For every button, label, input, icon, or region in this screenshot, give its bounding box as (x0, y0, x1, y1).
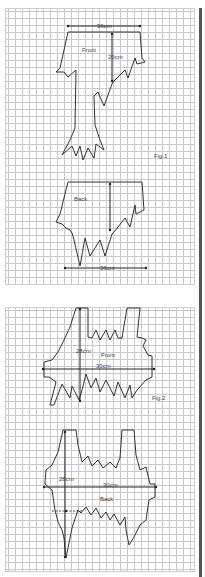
fig2-front-label: Front (101, 352, 115, 358)
fig2-front-width-label: 30cm (96, 363, 111, 369)
fig1-back-label: Back (74, 196, 88, 202)
fig1-front-label: Front (82, 47, 96, 53)
fig1-back-width-label: 36cm (100, 265, 115, 271)
fig1-front-width-label: 36cm (97, 23, 112, 29)
fig2-front-height-label: 28cm (76, 348, 91, 354)
fig2-back-width-label: 30cm (103, 482, 118, 488)
fig1-front-pattern: 36cm Front 20cm (56, 23, 145, 160)
fig2-front-pattern: 28cm Front 30cm (42, 308, 155, 405)
pattern-drawings: 36cm Front 20cm Fig.1 Back 36cm 28cm Fro… (0, 0, 205, 577)
fig2-back-label: Back (100, 496, 114, 502)
fig1-back-pattern: Back 36cm (56, 182, 147, 271)
fig2-caption: Fig.2 (152, 395, 166, 401)
fig2-back-pattern: 28cm 30cm Back (43, 430, 157, 558)
fig2-back-height-label: 28cm (59, 476, 74, 482)
fig1-caption: Fig.1 (154, 153, 168, 159)
fig1-front-length-label: 20cm (108, 54, 123, 60)
